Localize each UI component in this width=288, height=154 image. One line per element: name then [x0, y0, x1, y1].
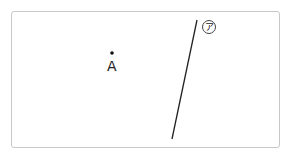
point-a-dot: [110, 51, 114, 55]
line-a: [172, 20, 197, 139]
point-a-label: A: [107, 59, 117, 73]
line-label-circled: ア: [202, 20, 216, 34]
diagram-canvas: [0, 0, 288, 154]
